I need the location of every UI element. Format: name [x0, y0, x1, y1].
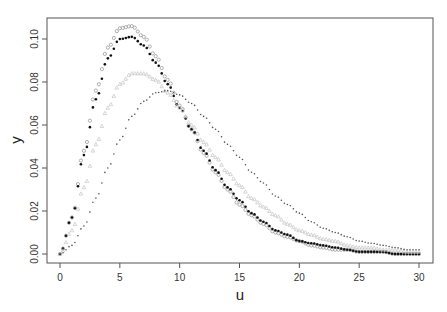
series-3-light-triangles	[58, 72, 421, 256]
y-axis-title: y	[7, 136, 24, 144]
x-axis: 051015202530	[57, 263, 425, 283]
y-tick-label: 0.02	[29, 201, 40, 221]
x-tick-label: 30	[413, 272, 425, 283]
x-tick-label: 25	[354, 272, 366, 283]
x-tick-label: 20	[294, 272, 306, 283]
y-tick-label: 0.08	[29, 72, 40, 92]
series-2-filled-dots	[59, 36, 421, 256]
chart: 051015202530 0.000.020.040.060.080.10 u …	[0, 0, 447, 312]
x-tick-label: 10	[174, 272, 186, 283]
y-tick-label: 0.06	[29, 115, 40, 135]
plot-frame	[47, 18, 433, 263]
y-tick-label: 0.04	[29, 158, 40, 178]
series-4-small-dots	[59, 90, 420, 255]
y-tick-label: 0.00	[29, 244, 40, 264]
x-tick-label: 5	[117, 272, 123, 283]
series-layer	[58, 25, 421, 256]
x-tick-label: 0	[57, 272, 63, 283]
y-axis: 0.000.020.040.060.080.10	[29, 29, 47, 264]
x-axis-title: u	[236, 286, 244, 303]
series-1-hollow-circles	[58, 25, 420, 256]
y-tick-label: 0.10	[29, 29, 40, 49]
x-tick-label: 15	[234, 272, 246, 283]
